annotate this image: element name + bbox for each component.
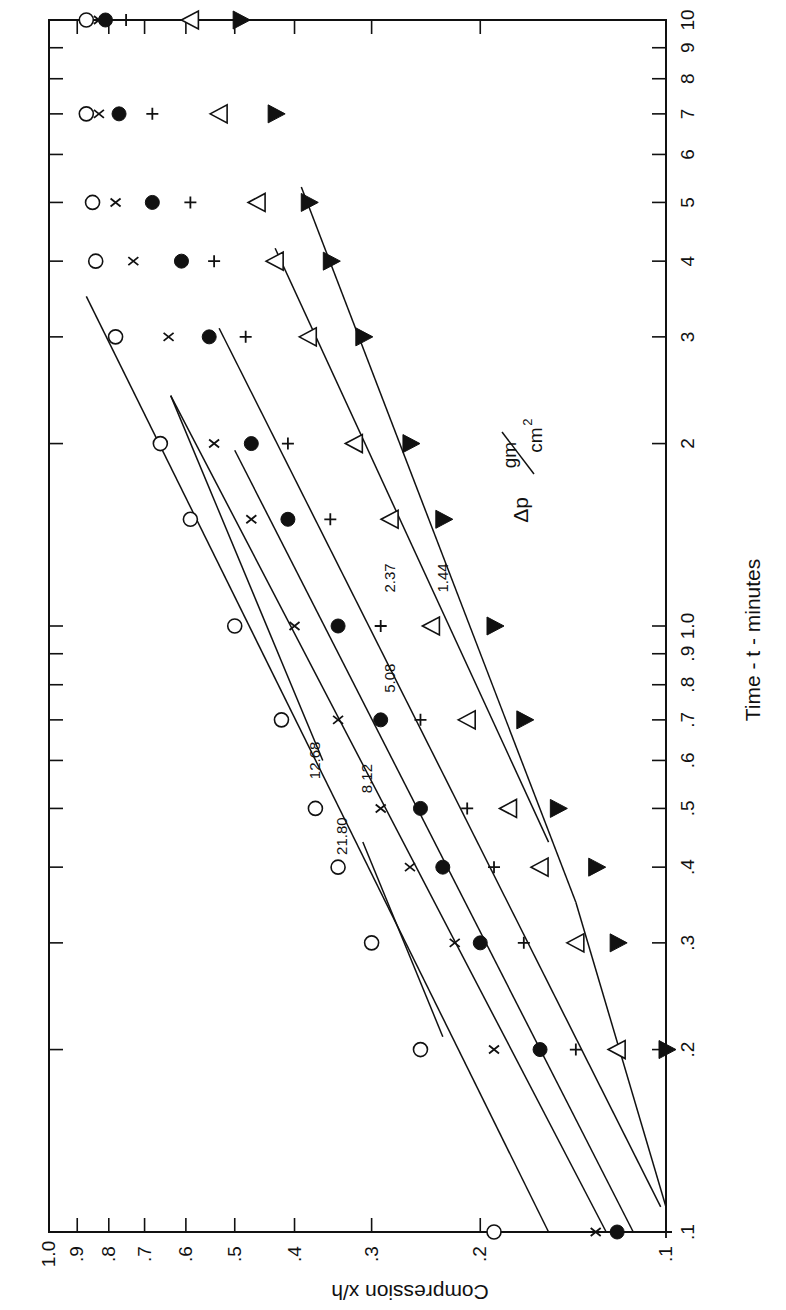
x-tick-label: .8 bbox=[677, 677, 698, 693]
y-tick-label: .2 bbox=[469, 1246, 490, 1262]
x-tick-label: .4 bbox=[677, 859, 698, 875]
data-point-open-circle bbox=[365, 936, 379, 950]
fit-line-1-44 bbox=[301, 187, 576, 902]
data-point-open-circle bbox=[274, 713, 288, 727]
x-tick-label: 5 bbox=[677, 197, 698, 208]
data-point-filled-circle bbox=[98, 13, 112, 27]
data-point-open-circle bbox=[89, 254, 103, 268]
data-point-open-circle bbox=[183, 512, 197, 526]
data-point-open-triangle bbox=[499, 799, 516, 817]
y-axis-title: Compression x/h bbox=[331, 1281, 489, 1304]
data-point-x bbox=[128, 257, 138, 265]
data-point-filled-circle bbox=[413, 801, 427, 815]
data-point-filled-circle bbox=[174, 254, 188, 268]
x-tick-label: 4 bbox=[677, 255, 698, 266]
x-axis-title: Time - t - minutes bbox=[741, 559, 764, 722]
data-point-x bbox=[489, 1046, 499, 1054]
data-point-filled-triangle bbox=[610, 934, 627, 952]
data-point-open-triangle bbox=[381, 510, 398, 528]
x-tick-label: 1.0 bbox=[677, 613, 698, 639]
x-tick-label: 7 bbox=[677, 109, 698, 120]
x-tick-label: .1 bbox=[677, 1224, 698, 1240]
data-point-open-circle bbox=[109, 330, 123, 344]
data-point-open-triangle bbox=[299, 328, 316, 346]
x-tick-label: 6 bbox=[677, 149, 698, 160]
data-point-filled-circle bbox=[374, 713, 388, 727]
y-tick-label: .4 bbox=[284, 1246, 305, 1262]
x-tick-label: 8 bbox=[677, 73, 698, 84]
data-point-plus bbox=[375, 620, 387, 632]
data-point-x bbox=[209, 440, 219, 448]
data-point-filled-triangle bbox=[356, 328, 373, 346]
legend-unit-den: cm bbox=[525, 427, 546, 452]
series-label: 8.12 bbox=[358, 764, 375, 793]
y-tick-label: .5 bbox=[224, 1246, 245, 1262]
x-tick-label: 9 bbox=[677, 42, 698, 53]
data-point-open-circle bbox=[331, 860, 345, 874]
data-point-open-triangle bbox=[181, 11, 198, 29]
data-point-open-triangle bbox=[210, 105, 227, 123]
x-tick-label: .7 bbox=[677, 712, 698, 728]
data-point-x bbox=[94, 110, 104, 118]
data-point-filled-triangle bbox=[550, 799, 567, 817]
data-point-filled-triangle bbox=[487, 617, 504, 635]
y-tick-label: .1 bbox=[655, 1246, 676, 1262]
x-tick-label: .2 bbox=[677, 1042, 698, 1058]
series-label: 1.44 bbox=[434, 563, 451, 592]
data-point-plus bbox=[146, 108, 158, 120]
data-point-filled-triangle bbox=[436, 510, 453, 528]
y-tick-label: .9 bbox=[66, 1246, 87, 1262]
legend-delta-p: Δp bbox=[509, 497, 532, 523]
legend-title: Δpgmcm2 bbox=[499, 418, 546, 522]
data-point-filled-triangle bbox=[403, 435, 420, 453]
data-point-plus bbox=[120, 14, 132, 26]
y-tick-label: 1.0 bbox=[38, 1241, 59, 1267]
x-tick-label: 3 bbox=[677, 332, 698, 343]
data-point-filled-circle bbox=[112, 107, 126, 121]
series-label: 12.68 bbox=[306, 742, 323, 780]
data-point-filled-circle bbox=[145, 195, 159, 209]
data-point-open-circle bbox=[228, 619, 242, 633]
data-point-filled-circle bbox=[331, 619, 345, 633]
data-point-filled-triangle bbox=[233, 11, 250, 29]
data-point-filled-triangle bbox=[517, 711, 534, 729]
data-point-filled-circle bbox=[610, 1225, 624, 1239]
data-point-open-circle bbox=[86, 195, 100, 209]
plot-area: .1.2.3.4.5.6.7.8.91.02345678910.1.2.3.4.… bbox=[38, 9, 698, 1267]
data-point-filled-triangle bbox=[589, 858, 606, 876]
data-point-plus bbox=[208, 255, 220, 267]
x-tick-label: .3 bbox=[677, 935, 698, 951]
data-point-filled-circle bbox=[473, 936, 487, 950]
data-point-open-circle bbox=[153, 437, 167, 451]
legend-unit-sup: 2 bbox=[520, 418, 535, 425]
data-point-open-triangle bbox=[266, 252, 283, 270]
data-point-filled-circle bbox=[244, 437, 258, 451]
series-label: 2.37 bbox=[381, 563, 398, 592]
data-point-filled-circle bbox=[281, 512, 295, 526]
x-tick-label: .9 bbox=[677, 646, 698, 662]
data-point-plus bbox=[518, 937, 530, 949]
x-tick-label: 10 bbox=[677, 9, 698, 30]
data-point-plus bbox=[324, 513, 336, 525]
data-point-filled-circle bbox=[202, 330, 216, 344]
data-point-x bbox=[405, 863, 415, 871]
data-point-open-circle bbox=[413, 1043, 427, 1057]
data-point-open-triangle bbox=[248, 193, 265, 211]
data-point-open-circle bbox=[487, 1225, 501, 1239]
data-point-plus bbox=[660, 1226, 672, 1238]
y-tick-label: .6 bbox=[175, 1246, 196, 1262]
data-point-open-triangle bbox=[608, 1041, 625, 1059]
y-tick-label: .8 bbox=[98, 1246, 119, 1262]
data-point-x bbox=[164, 333, 174, 341]
data-point-open-triangle bbox=[567, 934, 584, 952]
data-point-plus bbox=[240, 331, 252, 343]
data-point-open-triangle bbox=[345, 435, 362, 453]
data-point-plus bbox=[282, 438, 294, 450]
data-point-filled-circle bbox=[436, 860, 450, 874]
compression-vs-time-chart: .1.2.3.4.5.6.7.8.91.02345678910.1.2.3.4.… bbox=[0, 0, 786, 1310]
series-label: 5.08 bbox=[381, 664, 398, 693]
data-point-open-triangle bbox=[458, 711, 475, 729]
data-point-x bbox=[376, 804, 386, 812]
x-tick-label: 2 bbox=[677, 438, 698, 449]
data-point-filled-circle bbox=[533, 1043, 547, 1057]
